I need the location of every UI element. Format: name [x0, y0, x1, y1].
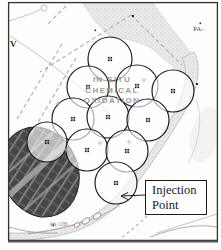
injection-well [66, 129, 108, 171]
callout-line1: Injection [152, 183, 206, 198]
treatment-area-label-line2: CHEMICAL [62, 86, 162, 97]
site-map-figure: IN SITU CHEMICAL OXIDATION Injection Poi… [0, 0, 221, 250]
callout-line2: Point [152, 198, 206, 213]
well-label-pa-bottom: PA-12B [50, 220, 68, 227]
left-v-mark: V [10, 39, 17, 49]
injection-well [95, 162, 137, 204]
injection-point-callout: Injection Point [145, 180, 207, 215]
injection-well [27, 122, 67, 162]
treatment-area-label-line3: OXIDATION [62, 96, 162, 107]
wetland-patch [185, 104, 221, 165]
treatment-area-label: IN SITU CHEMICAL OXIDATION [62, 75, 162, 107]
treatment-area-label-line1: IN SITU [62, 75, 162, 86]
well-label-pa-top-right: PA- [193, 25, 204, 32]
